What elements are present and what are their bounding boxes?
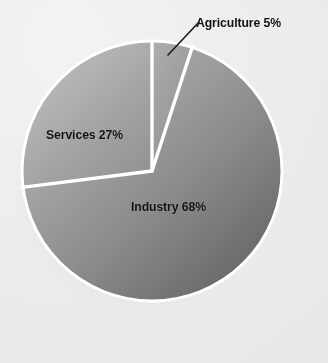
pie-chart-figure: Agriculture 5% Services 27% Industry 68% — [0, 0, 328, 363]
slice-label-agriculture: Agriculture 5% — [196, 15, 281, 30]
slice-label-services: Services 27% — [46, 127, 123, 142]
pie-chart-graphic — [0, 0, 328, 363]
slice-label-industry: Industry 68% — [131, 199, 206, 214]
